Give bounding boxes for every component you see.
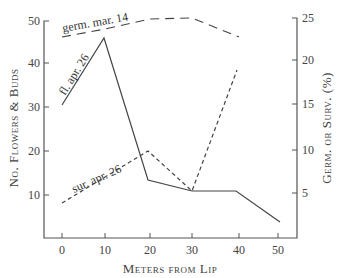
sur-label: sur. apr. 26 [70,162,124,196]
left-ticks [44,63,49,195]
x-tick-label: 50 [272,243,284,257]
right-tick-labels: 5 10 15 20 25 [302,11,314,200]
line-chart: 0 10 20 30 40 50 10 20 30 40 50 5 10 15 … [0,0,338,278]
left-tick-label: 50 [28,14,40,28]
right-tick-label: 10 [302,143,314,157]
right-axis-title: Germ. or Surv. (%) [319,72,334,184]
left-tick-label: 10 [28,188,40,202]
right-tick-label: 15 [302,97,314,111]
fl-label: fl. apr. 26 [56,51,92,97]
left-axis [44,18,297,238]
right-tick-label: 20 [302,53,314,67]
x-tick-label: 30 [186,243,198,257]
left-tick-label: 20 [28,144,40,158]
x-tick-label: 40 [233,243,245,257]
right-tick-label: 5 [302,186,308,200]
left-tick-label: 40 [28,56,40,70]
axes [44,18,297,238]
right-tick-label: 25 [302,11,314,25]
x-tick-label: 0 [59,243,65,257]
x-axis-title: Meters from Lip [123,261,218,276]
x-ticks [62,233,278,238]
x-tick-label: 10 [99,243,111,257]
x-tick-labels: 0 10 20 30 40 50 [59,243,284,257]
right-ticks [292,60,297,193]
left-tick-label: 30 [28,100,40,114]
left-tick-labels: 10 20 30 40 50 [28,14,40,202]
x-tick-label: 20 [144,243,156,257]
series-fl-line [62,38,280,222]
left-axis-title: No. Flowers & Buds [6,69,21,188]
